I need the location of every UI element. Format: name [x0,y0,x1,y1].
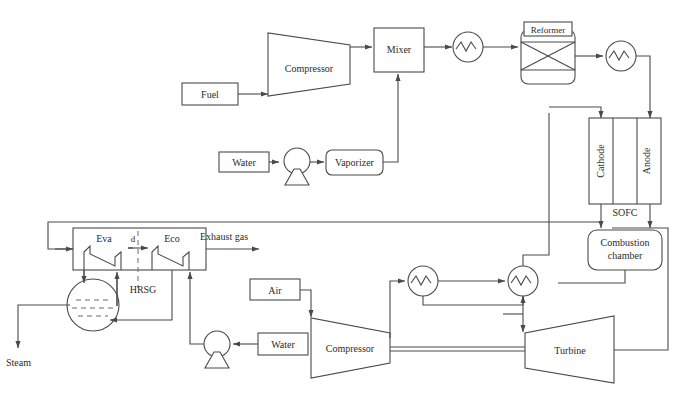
flow-air-to-compressor [300,290,311,317]
heat-exchanger-icon-3 [408,266,438,296]
steam-drum-icon [67,279,119,331]
flow-compressor-to-hx3 [390,281,405,338]
mixer-label: Mixer [387,44,412,55]
steam-label: Steam [6,357,31,368]
flow-hx4-to-cathode-riser [523,113,549,266]
flow-air-to-cathode [549,107,601,118]
cathode-label: Cathode [595,144,606,178]
flow-eco-to-drum [110,270,172,320]
water-label-top: Water [232,157,256,168]
fuel-compressor-label: Compressor [285,63,334,74]
fuel-label: Fuel [201,89,219,100]
vaporizer-box: Vaporizer [326,150,383,175]
water-source-box-top: Water [219,152,269,172]
air-source-box: Air [250,279,300,300]
exhaust-gas-label: Exhaust gas [200,231,248,242]
air-compressor-label: Compressor [326,343,375,354]
process-flow-diagram: Fuel Compressor Mixer Reformer [0,0,682,397]
flow-steam-out [18,305,70,348]
turbine: Turbine [525,316,614,383]
turbine-label: Turbine [554,345,586,356]
reformer-label: Reformer [531,25,565,35]
pump-icon-1 [284,148,310,185]
reformer-unit: Reformer [521,22,575,84]
heat-exchanger-icon-4 [508,266,538,296]
shaft [390,347,525,351]
flow-pump-to-eco [190,272,204,344]
sofc-stack: Cathode Anode [589,118,661,204]
pump-icon-2 [204,331,230,368]
heat-exchanger-icon-2 [606,41,636,71]
flow-hx2-to-anode [636,56,650,118]
combustion-chamber-label-2: chamber [608,250,643,261]
anode-label: Anode [641,147,652,174]
vaporizer-label: Vaporizer [335,157,375,168]
pinch-label: d [131,234,136,244]
mixer-box: Mixer [374,28,424,72]
fuel-compressor: Compressor [268,33,350,96]
fuel-source-box: Fuel [182,83,238,105]
air-compressor: Compressor [311,318,390,378]
flow-vaporizer-to-mixer [383,74,398,162]
sofc-label: SOFC [612,207,637,218]
water-label-bottom: Water [271,339,295,350]
eva-label: Eva [96,233,112,244]
eco-label: Eco [164,233,180,244]
flow-hx3-cold-loop [423,296,523,305]
combustion-chamber-label-1: Combustion [601,237,650,248]
combustion-chamber-box: Combustion chamber [588,230,662,270]
hrsg-label: HRSG [130,284,157,295]
flow-combustor-to-hx4 [558,270,625,283]
heat-exchanger-icon-1 [453,32,483,62]
water-source-box-bottom: Water [258,333,308,355]
air-label: Air [268,285,282,296]
